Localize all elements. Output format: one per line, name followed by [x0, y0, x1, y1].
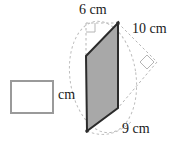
- right-angle-marker-top: [86, 23, 95, 32]
- answer-unit-label: cm: [58, 88, 75, 102]
- dimension-label-slant: 10 cm: [132, 22, 167, 36]
- right-angle-marker-apex: [140, 55, 154, 69]
- answer-input[interactable]: [10, 80, 54, 114]
- construction-diagonal-lower: [118, 62, 157, 108]
- geometry-figure-stage: 6 cm 10 cm 9 cm cm: [0, 0, 177, 146]
- vertex-dot-top: [116, 21, 120, 25]
- vertex-dot-bottom: [85, 129, 89, 133]
- parallelogram-shape: [86, 23, 118, 131]
- dimension-label-top: 6 cm: [79, 3, 107, 17]
- dimension-label-bottom: 9 cm: [122, 122, 150, 136]
